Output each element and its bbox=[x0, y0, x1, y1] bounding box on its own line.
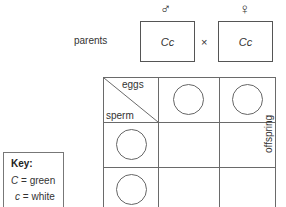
grid-line-vertical-2 bbox=[219, 77, 220, 207]
parent-box-female: Cc bbox=[218, 21, 273, 62]
key-entry-recessive: c = white bbox=[11, 192, 63, 202]
male-symbol-icon: ♂ bbox=[160, 1, 171, 16]
key-allele-recessive: c bbox=[15, 191, 20, 202]
sperm-gamete-circle-2[interactable] bbox=[116, 174, 147, 205]
grid-line-horizontal-1 bbox=[103, 122, 275, 123]
male-genotype: Cc bbox=[161, 36, 174, 48]
grid-line-horizontal-2 bbox=[103, 167, 275, 168]
grid-line-vertical-right bbox=[275, 77, 276, 207]
parent-box-male: Cc bbox=[140, 21, 195, 62]
egg-gamete-circle-2[interactable] bbox=[232, 84, 263, 115]
key-equals-dominant: = bbox=[21, 175, 27, 186]
grid-line-horizontal-top bbox=[103, 77, 275, 78]
female-symbol-icon: ♀ bbox=[239, 1, 250, 16]
key-equals-recessive: = bbox=[23, 191, 29, 202]
egg-gamete-circle-1[interactable] bbox=[173, 84, 204, 115]
female-genotype: Cc bbox=[239, 36, 252, 48]
grid-line-vertical-left bbox=[103, 77, 104, 207]
key-phenotype-recessive: white bbox=[31, 191, 54, 202]
grid-line-vertical-1 bbox=[158, 77, 159, 207]
eggs-label: eggs bbox=[122, 80, 144, 90]
sperm-gamete-circle-1[interactable] bbox=[116, 129, 147, 160]
sperm-label: sperm bbox=[106, 111, 134, 121]
key-entry-dominant: C = green bbox=[11, 176, 63, 186]
key-phenotype-dominant: green bbox=[30, 175, 56, 186]
key-box: Key: C = green c = white bbox=[3, 152, 64, 207]
punnett-square-diagram: parents ♂ Cc × ♀ Cc eggs sperm offspring… bbox=[0, 0, 286, 207]
offspring-label: offspring bbox=[264, 83, 274, 153]
parents-label: parents bbox=[74, 36, 107, 46]
key-title: Key: bbox=[11, 159, 63, 169]
key-allele-dominant: C bbox=[11, 175, 18, 186]
cross-symbol: × bbox=[201, 37, 207, 48]
